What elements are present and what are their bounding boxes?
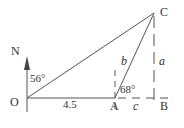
angle-68-label: 68° bbox=[120, 83, 135, 95]
north-arrow-icon bbox=[24, 56, 30, 112]
point-a-label: A bbox=[110, 99, 119, 113]
bearing-triangle-diagram: N 56° 68° O A B C 4.5 b a c bbox=[0, 0, 184, 128]
angle-56-label: 56° bbox=[30, 72, 45, 84]
side-oa-label: 4.5 bbox=[63, 98, 77, 110]
side-c-label: c bbox=[133, 99, 139, 113]
point-c-label: C bbox=[160, 5, 168, 19]
point-o-label: O bbox=[10, 95, 19, 109]
point-b-label: B bbox=[160, 99, 168, 113]
side-b-label: b bbox=[121, 54, 127, 68]
north-label: N bbox=[11, 44, 20, 58]
side-a-label: a bbox=[159, 54, 165, 68]
